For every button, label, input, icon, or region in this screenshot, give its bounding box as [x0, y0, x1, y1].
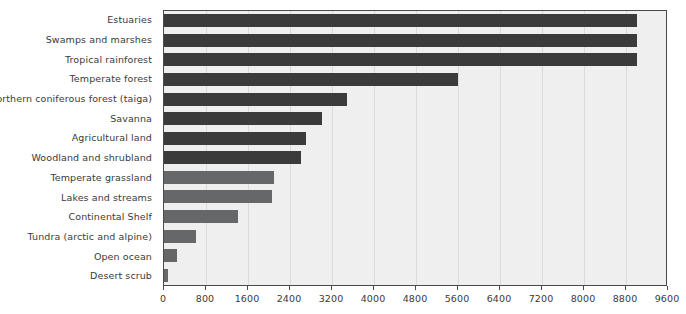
bar-row	[164, 11, 666, 31]
bar-row	[164, 207, 666, 227]
bar-row	[164, 70, 666, 90]
bar[interactable]	[164, 14, 637, 27]
bar[interactable]	[164, 151, 301, 164]
x-tick-mark	[331, 286, 332, 290]
x-tick-label: 2400	[277, 293, 302, 304]
bar[interactable]	[164, 171, 274, 184]
x-tick-mark	[499, 286, 500, 290]
category-label: Northern coniferous forest (taiga)	[0, 89, 158, 109]
x-tick-mark	[667, 286, 668, 290]
bar[interactable]	[164, 190, 272, 203]
bar[interactable]	[164, 132, 306, 145]
category-label: Continental Shelf	[0, 207, 158, 227]
bar-row	[164, 128, 666, 148]
category-label: Temperate grassland	[0, 168, 158, 188]
x-tick-mark	[247, 286, 248, 290]
bar-row	[164, 226, 666, 246]
x-tick-label: 8000	[571, 293, 596, 304]
bar[interactable]	[164, 112, 322, 125]
category-label: Lakes and streams	[0, 187, 158, 207]
x-tick-mark	[541, 286, 542, 290]
bar[interactable]	[164, 34, 637, 47]
bar-row	[164, 266, 666, 286]
bar-row	[164, 148, 666, 168]
bar[interactable]	[164, 210, 238, 223]
x-tick-label: 1600	[235, 293, 260, 304]
bar[interactable]	[164, 73, 458, 86]
bar-row	[164, 168, 666, 188]
x-tick-label: 3200	[319, 293, 344, 304]
x-tick-label: 0	[160, 293, 166, 304]
category-axis-labels: EstuariesSwamps and marshesTropical rain…	[0, 10, 158, 286]
category-label: Woodland and shrubland	[0, 148, 158, 168]
x-tick-mark	[625, 286, 626, 290]
x-tick-mark	[415, 286, 416, 290]
bar[interactable]	[164, 230, 196, 243]
x-tick-label: 8800	[613, 293, 638, 304]
bar[interactable]	[164, 269, 168, 282]
x-tick-label: 4000	[361, 293, 386, 304]
x-tick-label: 6400	[487, 293, 512, 304]
x-tick-mark	[163, 286, 164, 290]
category-label: Estuaries	[0, 10, 158, 30]
x-tick-label: 5600	[445, 293, 470, 304]
bar-row	[164, 109, 666, 129]
x-axis: 0800160024003200400048005600640072008000…	[163, 286, 667, 314]
category-label: Temperate forest	[0, 69, 158, 89]
x-tick-mark	[583, 286, 584, 290]
category-label: Open ocean	[0, 247, 158, 267]
bar-chart: EstuariesSwamps and marshesTropical rain…	[0, 0, 686, 314]
bar-row	[164, 187, 666, 207]
bar[interactable]	[164, 93, 347, 106]
category-label: Desert scrub	[0, 266, 158, 286]
x-tick-label: 4800	[403, 293, 428, 304]
bar-row	[164, 246, 666, 266]
category-label: Tundra (arctic and alpine)	[0, 227, 158, 247]
x-tick-label: 9600	[655, 293, 680, 304]
x-tick-label: 800	[196, 293, 214, 304]
category-label: Swamps and marshes	[0, 30, 158, 50]
bar-row	[164, 50, 666, 70]
x-tick-mark	[457, 286, 458, 290]
bar[interactable]	[164, 53, 637, 66]
bar[interactable]	[164, 249, 177, 262]
plot-area	[163, 10, 667, 286]
x-tick-mark	[205, 286, 206, 290]
x-tick-label: 7200	[529, 293, 554, 304]
category-label: Tropical rainforest	[0, 49, 158, 69]
category-label: Agricultural land	[0, 128, 158, 148]
x-tick-mark	[289, 286, 290, 290]
bars-container	[164, 11, 666, 285]
bar-row	[164, 31, 666, 51]
bar-row	[164, 89, 666, 109]
x-tick-mark	[373, 286, 374, 290]
category-label: Savanna	[0, 109, 158, 129]
